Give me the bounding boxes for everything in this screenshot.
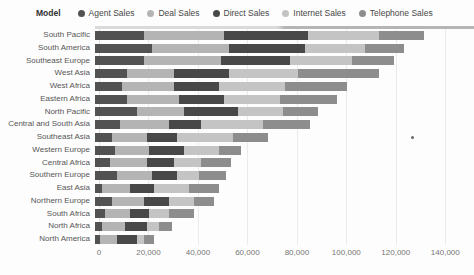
- bar-segment[interactable]: [379, 31, 424, 40]
- bar-segment[interactable]: [127, 95, 179, 104]
- bar-segment[interactable]: [137, 235, 144, 244]
- bar-segment[interactable]: [130, 209, 150, 218]
- bar-segment[interactable]: [229, 69, 298, 78]
- bar-segment[interactable]: [95, 184, 102, 193]
- bar-segment[interactable]: [95, 209, 105, 218]
- bar-segment[interactable]: [120, 120, 169, 129]
- bar-segment[interactable]: [102, 184, 129, 193]
- bar-segment[interactable]: [95, 107, 137, 116]
- bar-segment[interactable]: [95, 133, 112, 142]
- bar-segment[interactable]: [283, 107, 318, 116]
- bar-segment[interactable]: [285, 82, 347, 91]
- bar-segment[interactable]: [105, 209, 130, 218]
- legend-item[interactable]: Agent Sales: [78, 8, 135, 18]
- bar-segment[interactable]: [305, 44, 364, 53]
- bar-segment[interactable]: [221, 56, 290, 65]
- bar-segment[interactable]: [177, 133, 234, 142]
- bar-segment[interactable]: [169, 197, 194, 206]
- bar-segment[interactable]: [263, 120, 310, 129]
- bar-segment[interactable]: [149, 146, 184, 155]
- bar-segment[interactable]: [365, 44, 405, 53]
- bar-segment[interactable]: [224, 95, 281, 104]
- bar-segment[interactable]: [154, 184, 189, 193]
- bar-segment[interactable]: [169, 120, 201, 129]
- bar-segment[interactable]: [144, 197, 169, 206]
- bar-segment[interactable]: [298, 69, 380, 78]
- bar-segment[interactable]: [149, 209, 169, 218]
- bar-segment[interactable]: [100, 235, 117, 244]
- x-tick-label: 0: [97, 248, 101, 257]
- bar-segment[interactable]: [95, 120, 120, 129]
- bar-segment[interactable]: [144, 235, 154, 244]
- legend-item[interactable]: Deal Sales: [147, 8, 199, 18]
- bar-segment[interactable]: [127, 69, 174, 78]
- legend-item[interactable]: Telephone Sales: [359, 8, 433, 18]
- bar-row: West Africa: [0, 80, 474, 93]
- bar: [95, 56, 394, 65]
- bar-segment[interactable]: [115, 146, 150, 155]
- bar-segment[interactable]: [117, 235, 137, 244]
- bar-segment[interactable]: [147, 158, 174, 167]
- bar: [95, 120, 310, 129]
- bar-segment[interactable]: [112, 133, 147, 142]
- bar-segment[interactable]: [201, 158, 231, 167]
- bar-segment[interactable]: [95, 222, 102, 231]
- bar-segment[interactable]: [95, 197, 112, 206]
- bar-segment[interactable]: [201, 120, 263, 129]
- bar-segment[interactable]: [122, 82, 174, 91]
- bar-segment[interactable]: [144, 56, 221, 65]
- bar-segment[interactable]: [110, 158, 147, 167]
- bar-segment[interactable]: [144, 31, 223, 40]
- bar-segment[interactable]: [179, 95, 224, 104]
- bar-segment[interactable]: [95, 158, 110, 167]
- bar-segment[interactable]: [95, 171, 117, 180]
- bar-segment[interactable]: [194, 197, 214, 206]
- bar-segment[interactable]: [174, 69, 228, 78]
- bar-segment[interactable]: [280, 95, 337, 104]
- bar-segment[interactable]: [233, 133, 268, 142]
- legend-item-label: Telephone Sales: [370, 8, 433, 18]
- bar-segment[interactable]: [147, 222, 159, 231]
- bar-segment[interactable]: [95, 146, 115, 155]
- bar-segment[interactable]: [189, 184, 219, 193]
- bar-segment[interactable]: [174, 158, 201, 167]
- bar-segment[interactable]: [102, 222, 124, 231]
- bar-segment[interactable]: [224, 31, 308, 40]
- bar-segment[interactable]: [169, 209, 194, 218]
- bar-segment[interactable]: [95, 56, 144, 65]
- bar-segment[interactable]: [152, 171, 177, 180]
- bar-segment[interactable]: [308, 31, 380, 40]
- category-label: Central Africa: [0, 157, 95, 170]
- bar-segment[interactable]: [229, 44, 306, 53]
- bar-segment[interactable]: [238, 107, 283, 116]
- bar-segment[interactable]: [219, 146, 241, 155]
- bar-segment[interactable]: [125, 222, 147, 231]
- legend-item[interactable]: Internet Sales: [282, 8, 345, 18]
- bar-segment[interactable]: [95, 69, 127, 78]
- bar-segment[interactable]: [290, 56, 352, 65]
- bar-segment[interactable]: [147, 133, 177, 142]
- bar-segment[interactable]: [174, 82, 219, 91]
- x-tick-label: 100,000: [332, 248, 361, 257]
- legend-items: Agent SalesDeal SalesDirect SalesInterne…: [78, 8, 433, 18]
- bar-segment[interactable]: [184, 107, 238, 116]
- bar-segment[interactable]: [95, 44, 152, 53]
- stacked-bar-chart: Model Agent SalesDeal SalesDirect SalesI…: [0, 0, 474, 275]
- x-tick-label: 60,000: [235, 248, 259, 257]
- bar-segment[interactable]: [352, 56, 394, 65]
- legend-item[interactable]: Direct Sales: [213, 8, 270, 18]
- bar-segment[interactable]: [130, 184, 155, 193]
- bar-segment[interactable]: [95, 95, 127, 104]
- bar-segment[interactable]: [177, 171, 199, 180]
- bar: [95, 222, 172, 231]
- bar-segment[interactable]: [117, 171, 152, 180]
- bar-segment[interactable]: [95, 31, 144, 40]
- bar-segment[interactable]: [184, 146, 219, 155]
- bar-segment[interactable]: [95, 82, 122, 91]
- bar-segment[interactable]: [137, 107, 184, 116]
- bar-segment[interactable]: [199, 171, 226, 180]
- bar-segment[interactable]: [159, 222, 171, 231]
- bar-segment[interactable]: [112, 197, 144, 206]
- bar-segment[interactable]: [152, 44, 229, 53]
- bar-segment[interactable]: [219, 82, 286, 91]
